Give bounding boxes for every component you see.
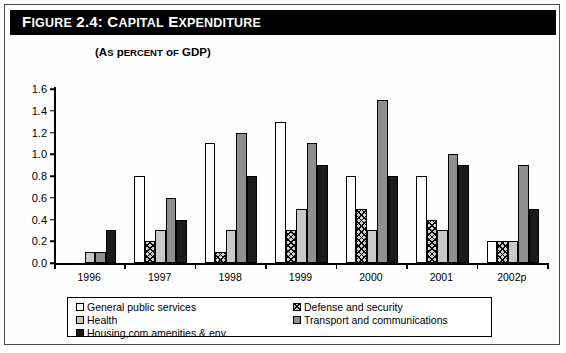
bar [416,176,427,263]
legend-item: Health [76,314,228,326]
x-tick-mark [54,264,56,269]
y-tick-mark [50,88,54,90]
y-tick-mark [50,154,54,156]
legend-column-right: Defense and securityTransport and commun… [293,301,448,327]
legend-item: Transport and communications [293,314,448,326]
legend-item: Housing,com.amenities & env. [76,327,228,339]
bar [448,154,459,263]
y-tick-label: 0.2 [17,236,47,247]
bar [356,209,367,263]
legend-item: General public services [76,301,228,313]
x-tick-label: 2001 [430,271,453,283]
x-tick-label: 1998 [218,271,241,283]
bar [296,209,307,263]
x-tick-label: 2000 [359,271,382,283]
x-tick-mark [124,264,126,269]
legend-label: Defense and security [304,302,403,313]
y-tick-label: 0.0 [17,258,47,269]
y-tick-mark [50,219,54,221]
y-tick-mark [50,110,54,112]
x-tick-label: 1999 [289,271,312,283]
bar [317,165,328,263]
y-tick-mark [50,197,54,199]
y-tick-label: 1.4 [17,105,47,116]
chart-legend: General public servicesHealthHousing,com… [67,297,492,337]
bar [427,220,438,264]
y-tick-label: 0.4 [17,214,47,225]
bar [106,230,117,263]
x-tick-mark [195,264,197,269]
legend-label: Transport and communications [304,315,448,326]
figure-frame: FIGURE 2.4: CAPITAL EXPENDITURE (AS pERC… [4,4,560,345]
bar [226,230,237,263]
bar [166,198,177,263]
plot-area [54,89,547,263]
legend-label: Housing,com.amenities & env. [87,328,228,339]
x-tick-mark [265,264,267,269]
x-tick-label: 2002p [497,271,526,283]
y-tick-mark [50,241,54,243]
bar [367,230,378,263]
bar [307,143,318,263]
y-tick-label: 0.8 [17,171,47,182]
bar [215,252,226,263]
y-tick-mark [50,132,54,134]
legend-item: Defense and security [293,301,448,313]
bar [529,209,540,263]
legend-swatch-icon [76,303,84,311]
bar [518,165,529,263]
legend-swatch-icon [76,316,84,324]
bar [145,241,156,263]
bar [236,133,247,264]
x-tick-mark [477,264,479,269]
bar [508,241,519,263]
x-tick-label: 1997 [148,271,171,283]
bar [346,176,357,263]
bar [95,252,106,263]
bar [134,176,145,263]
y-tick-label: 0.6 [17,192,47,203]
y-tick-mark [50,175,54,177]
legend-column-left: General public servicesHealthHousing,com… [76,301,228,340]
bar [286,230,297,263]
x-tick-mark [547,264,549,269]
legend-swatch-icon [293,303,301,311]
x-tick-mark [336,264,338,269]
y-tick-label: 1.2 [17,127,47,138]
x-tick-label: 1996 [78,271,101,283]
bar [487,241,498,263]
y-tick-label: 1.0 [17,149,47,160]
bar [247,176,258,263]
bar [497,241,508,263]
bar [205,143,216,263]
bar [85,252,96,263]
bar [458,165,469,263]
bar [388,176,399,263]
y-tick-label: 1.6 [17,84,47,95]
bar [437,230,448,263]
bar [275,122,286,263]
chart-plot: 0.00.20.40.60.81.01.21.41.6 199619971998… [5,5,561,346]
legend-label: Health [87,315,117,326]
x-axis-line [54,263,549,265]
bar [377,100,388,263]
x-tick-mark [406,264,408,269]
bar [176,220,187,264]
bar [155,230,166,263]
legend-swatch-icon [293,316,301,324]
legend-swatch-icon [76,329,84,337]
legend-label: General public services [87,302,196,313]
